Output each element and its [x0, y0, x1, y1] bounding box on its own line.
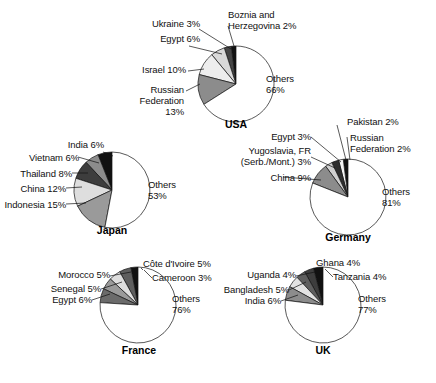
label-uk-bangladesh: Bangladesh 5%	[212, 284, 289, 295]
label-usa-bosnia: Boznia andHerzegovina 2%	[228, 9, 338, 31]
label-uk-tanzania: Tanzania 4%	[333, 271, 413, 282]
leader-line-germany-pakistan	[337, 125, 346, 160]
pie-chart-figure: Ukraine 3% Egypt 6% Israel 10% RussianFe…	[0, 0, 436, 383]
chart-title-usa: USA	[198, 118, 274, 130]
label-usa-russia: RussianFederation13%	[108, 84, 184, 117]
label-japan-others: Others53%	[148, 179, 206, 201]
label-uk-ghana: Ghana 4%	[316, 257, 386, 268]
label-germany-russia: RussianFederation 2%	[350, 132, 436, 154]
label-uk-india: India 6%	[222, 295, 281, 306]
leader-line-usa-ukraine	[199, 29, 231, 49]
label-germany-china: China 9%	[237, 172, 311, 183]
label-usa-ukraine: Ukraine 3%	[118, 18, 200, 29]
leader-line-germany-egypt	[311, 137, 341, 162]
label-uk-uganda: Uganda 4%	[228, 269, 296, 280]
label-japan-india: India 6%	[28, 139, 104, 150]
label-uk-others: Others77%	[358, 293, 416, 315]
label-japan-thailand: Thailand 8%	[0, 168, 72, 179]
chart-title-germany: Germany	[310, 231, 386, 243]
label-france-egypt: Egypt 6%	[20, 294, 92, 305]
label-germany-egypt: Egypt 3%	[251, 131, 311, 142]
leader-line-usa-egypt	[189, 46, 222, 54]
label-france-ivoire: Côte d'Ivoire 5%	[143, 258, 239, 269]
label-usa-egypt: Egypt 6%	[118, 33, 200, 44]
label-germany-others: Others81%	[382, 186, 436, 208]
label-germany-yugoslavia: Yugoslavia, FR(Serb./Mont.) 3%	[219, 145, 311, 167]
label-usa-others: Others66%	[266, 73, 326, 95]
label-france-senegal: Senegal 5%	[24, 283, 101, 294]
chart-title-uk: UK	[290, 344, 356, 356]
label-japan-indonesia: Indonesia 15%	[0, 199, 66, 210]
chart-title-japan: Japan	[76, 224, 148, 236]
label-japan-china: China 12%	[0, 183, 66, 194]
label-france-morocco: Morocco 5%	[30, 269, 110, 280]
chart-title-france: France	[102, 344, 176, 356]
label-japan-vietnam: Vietnam 6%	[4, 152, 79, 163]
label-usa-israel: Israel 10%	[108, 64, 186, 75]
label-germany-pakistan: Pakistan 2%	[347, 116, 431, 127]
